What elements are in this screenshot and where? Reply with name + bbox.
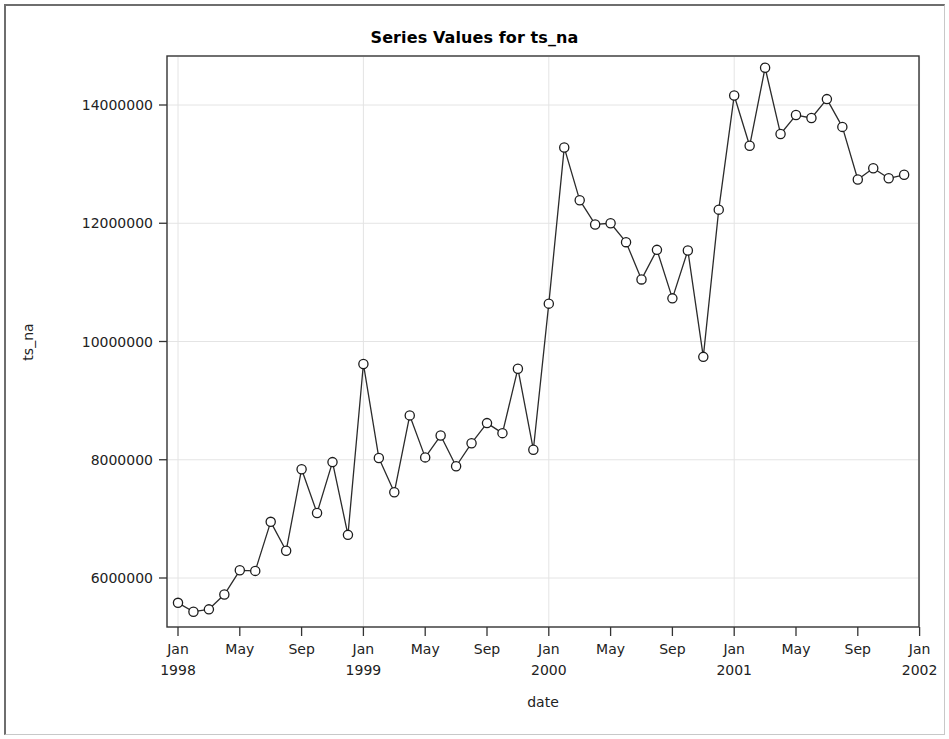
data-point-marker (405, 411, 414, 420)
x-axis-tick-label-year: 2001 (716, 662, 752, 678)
data-point-marker (900, 170, 909, 179)
data-point-marker (714, 205, 723, 214)
data-point-marker (544, 299, 553, 308)
data-point-marker (421, 453, 430, 462)
data-point-marker (266, 517, 275, 526)
data-point-marker (575, 196, 584, 205)
data-point-marker (776, 129, 785, 138)
x-axis-tick-label-year: 2000 (531, 662, 567, 678)
data-point-marker (282, 546, 291, 555)
data-point-marker (251, 566, 260, 575)
data-point-marker (869, 164, 878, 173)
data-point-marker (853, 175, 862, 184)
data-point-marker (359, 359, 368, 368)
data-point-marker (591, 220, 600, 229)
data-point-marker (699, 352, 708, 361)
data-point-marker (297, 465, 306, 474)
y-axis-ticks: 60000008000000100000001200000014000000 (82, 97, 167, 586)
x-axis-tick-label-month: Jan (537, 641, 560, 657)
data-point-marker (374, 453, 383, 462)
x-axis-tick-label-month: Jan (166, 641, 189, 657)
x-axis-tick-label-month: Sep (659, 641, 686, 657)
x-axis-tick-label-month: Sep (288, 641, 315, 657)
data-point-marker (189, 607, 198, 616)
x-axis-tick-label-month: Jan (352, 641, 375, 657)
y-axis-tick-label: 14000000 (82, 97, 153, 113)
x-axis-tick-label-year: 1998 (160, 662, 196, 678)
x-axis-tick-label-year: 2002 (902, 662, 938, 678)
data-point-marker (312, 508, 321, 517)
x-axis-label: date (527, 694, 559, 710)
plot-svg: 60000008000000100000001200000014000000 J… (0, 0, 949, 739)
data-point-marker (745, 141, 754, 150)
data-point-marker (173, 598, 182, 607)
series-markers (173, 63, 908, 616)
data-point-marker (791, 110, 800, 119)
data-point-marker (822, 94, 831, 103)
data-point-marker (436, 431, 445, 440)
data-point-marker (343, 530, 352, 539)
data-point-marker (452, 462, 461, 471)
x-axis-tick-label-month: May (225, 641, 254, 657)
data-point-marker (482, 418, 491, 427)
y-axis-tick-label: 6000000 (91, 570, 153, 586)
data-point-marker (220, 590, 229, 599)
series-path-group (178, 68, 904, 612)
x-axis-ticks: Jan1998MaySepJan1999MaySepJan2000MaySepJ… (160, 627, 937, 678)
data-point-marker (683, 246, 692, 255)
chart-screenshot: Series Values for ts_na 6000000800000010… (0, 0, 949, 739)
chart-canvas: Series Values for ts_na 6000000800000010… (0, 0, 949, 739)
data-point-marker (235, 566, 244, 575)
x-axis-tick-label-year: 1999 (346, 662, 382, 678)
y-axis-label: ts_na (20, 323, 36, 360)
data-point-marker (467, 439, 476, 448)
data-point-marker (807, 113, 816, 122)
data-point-marker (328, 458, 337, 467)
data-point-marker (761, 63, 770, 72)
x-axis-tick-label-month: Sep (474, 641, 501, 657)
data-point-marker (560, 143, 569, 152)
data-point-marker (513, 364, 522, 373)
data-point-marker (621, 238, 630, 247)
x-axis-tick-label-month: Sep (845, 641, 872, 657)
x-axis-tick-label-month: Jan (722, 641, 745, 657)
data-point-marker (884, 174, 893, 183)
x-axis-tick-label-month: May (782, 641, 811, 657)
data-point-marker (668, 294, 677, 303)
data-point-marker (390, 488, 399, 497)
data-point-marker (529, 445, 538, 454)
data-point-marker (606, 219, 615, 228)
x-axis-title: date (527, 694, 559, 710)
data-point-marker (204, 605, 213, 614)
data-point-marker (838, 122, 847, 131)
x-axis-tick-label-month: May (596, 641, 625, 657)
x-axis-tick-label-month: May (411, 641, 440, 657)
data-point-marker (498, 429, 507, 438)
data-point-marker (730, 91, 739, 100)
y-axis-tick-label: 10000000 (82, 334, 153, 350)
data-point-marker (637, 275, 646, 284)
y-axis-tick-label: 12000000 (82, 215, 153, 231)
x-axis-tick-label-month: Jan (908, 641, 931, 657)
y-axis-tick-label: 8000000 (91, 452, 153, 468)
data-point-marker (652, 245, 661, 254)
y-axis-title: ts_na (20, 323, 36, 360)
